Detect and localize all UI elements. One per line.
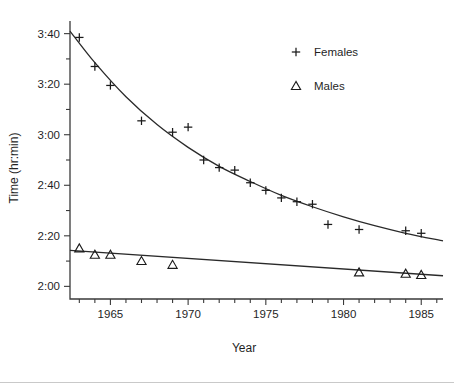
- fit-curves: [70, 31, 443, 276]
- data-point-plus: [277, 194, 285, 202]
- x-axis-tick-labels: 19651970197519801985: [98, 308, 434, 320]
- marathon-times-scatter-plot: 2:002:202:403:003:203:40 196519701975198…: [0, 0, 454, 383]
- x-axis-title: Year: [232, 341, 256, 355]
- y-tick-label: 2:40: [38, 179, 60, 191]
- legend-label: Females: [314, 46, 358, 58]
- x-axis-ticks: [79, 299, 436, 305]
- y-axis-title: Time (hr:min): [7, 133, 21, 204]
- data-point-plus: [293, 198, 301, 206]
- legend-plus-icon: [292, 48, 300, 56]
- x-tick-label: 1985: [408, 308, 434, 320]
- plot-data: [70, 31, 443, 278]
- series-males: [75, 244, 426, 279]
- legend-label: Males: [314, 80, 345, 92]
- chart-figure: 2:002:202:403:003:203:40 196519701975198…: [0, 0, 454, 383]
- data-point-plus: [137, 117, 145, 125]
- fit-curve-females-fit: [70, 31, 443, 241]
- x-tick-label: 1975: [253, 308, 279, 320]
- data-point-plus: [355, 225, 363, 233]
- y-tick-label: 2:20: [38, 230, 60, 242]
- series-females: [75, 33, 425, 237]
- y-axis-ticks: [64, 34, 70, 287]
- chart-legend: FemalesMales: [291, 46, 358, 92]
- data-point-triangle: [354, 268, 363, 276]
- data-point-plus: [324, 220, 332, 228]
- data-point-triangle: [106, 250, 115, 258]
- data-point-plus: [184, 123, 192, 131]
- data-point-plus: [91, 62, 99, 70]
- y-tick-label: 2:00: [38, 280, 60, 292]
- legend-item-males: Males: [291, 80, 345, 92]
- legend-item-females: Females: [292, 46, 359, 58]
- fit-curve-males-fit: [70, 250, 443, 275]
- data-point-triangle: [168, 260, 177, 268]
- x-tick-label: 1965: [98, 308, 124, 320]
- y-tick-label: 3:00: [38, 129, 60, 141]
- x-tick-label: 1970: [175, 308, 201, 320]
- x-tick-label: 1980: [331, 308, 357, 320]
- y-tick-label: 3:40: [38, 28, 60, 40]
- data-point-plus: [199, 156, 207, 164]
- legend-triangle-icon: [291, 81, 300, 89]
- axis-frame: [70, 21, 443, 299]
- y-tick-label: 3:20: [38, 78, 60, 90]
- series-markers: [75, 33, 426, 278]
- data-point-triangle: [137, 256, 146, 264]
- y-axis-tick-labels: 2:002:202:403:003:203:40: [38, 28, 60, 293]
- data-point-plus: [106, 81, 114, 89]
